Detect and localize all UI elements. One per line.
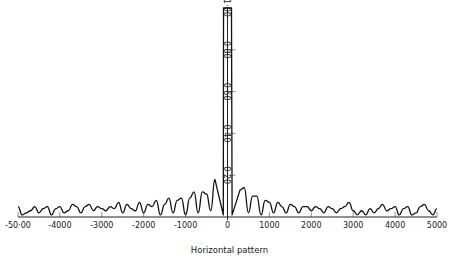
x-axis-label: Horizontal pattern: [0, 245, 459, 255]
x-tick-label: 5000: [427, 221, 447, 230]
x-tick-label: 4000: [385, 221, 405, 230]
x-tick-label: -4000: [48, 221, 71, 230]
x-tick-label: 1000: [259, 221, 279, 230]
x-tick-label: -2000: [132, 221, 155, 230]
x-tick-label: 3000: [343, 221, 363, 230]
x-tick-label: -1000: [174, 221, 197, 230]
x-tick-label: -50·00: [5, 221, 31, 230]
x-tick-label: 2000: [301, 221, 321, 230]
x-tick-label: -3000: [90, 221, 113, 230]
x-axis: -50·00-4000-3000-2000-100001000200030004…: [5, 212, 447, 230]
chart: -50·00-4000-3000-2000-100001000200030004…: [0, 0, 459, 263]
x-tick-label: 0: [225, 221, 230, 230]
